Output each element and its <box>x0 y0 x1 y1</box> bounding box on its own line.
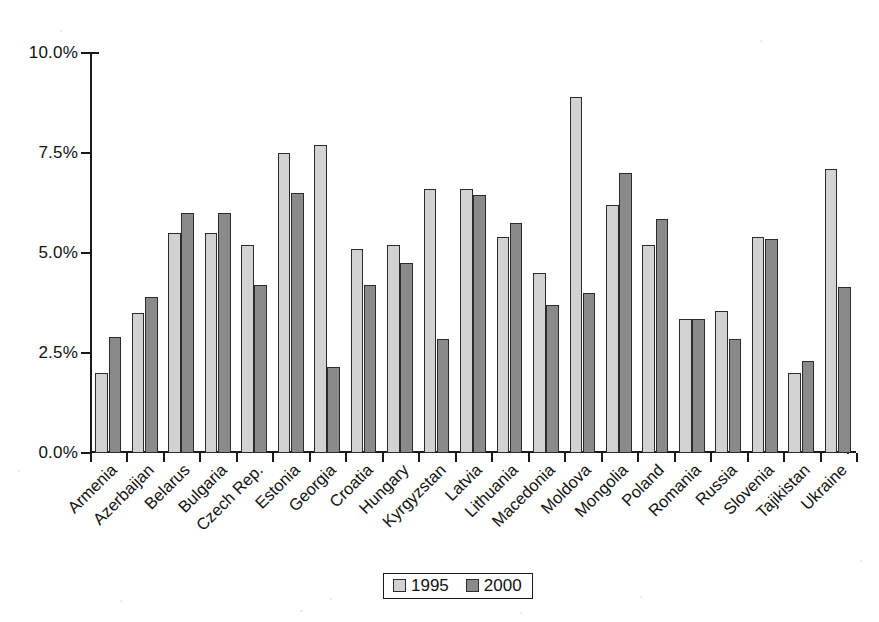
x-axis-tick <box>163 453 165 462</box>
legend-swatch-icon-1995 <box>393 579 406 592</box>
x-axis-labels: ArmeniaAzerbaijanBelarusBulgariaCzech Re… <box>0 0 879 622</box>
scan-artifact <box>520 612 522 614</box>
x-axis-tick <box>126 453 128 462</box>
x-axis-tick <box>382 453 384 462</box>
y-axis-tick <box>81 152 90 154</box>
legend-label-1995: 1995 <box>411 577 449 594</box>
y-axis-tick <box>81 252 90 254</box>
x-axis-tick <box>199 453 201 462</box>
x-axis-tick <box>820 453 822 462</box>
chart-legend: 1995 2000 <box>383 573 533 599</box>
scan-artifact <box>120 600 122 602</box>
y-axis-tick <box>81 352 90 354</box>
bar-chart-figure: 0.0%2.5%5.0%7.5%10.0% ArmeniaAzerbaijanB… <box>0 0 879 622</box>
scan-artifact <box>860 560 862 562</box>
x-axis-tick <box>856 453 858 462</box>
x-axis-tick <box>236 453 238 462</box>
x-axis-tick <box>418 453 420 462</box>
y-axis-tick <box>81 452 90 454</box>
scan-artifact <box>760 40 762 42</box>
x-axis-tick <box>272 453 274 462</box>
x-axis-tick <box>710 453 712 462</box>
x-axis-tick <box>455 453 457 462</box>
x-axis-tick <box>674 453 676 462</box>
legend-entry-1995: 1995 <box>393 577 449 594</box>
legend-swatch-icon-2000 <box>466 579 479 592</box>
x-axis-tick <box>309 453 311 462</box>
scan-artifact <box>806 470 808 472</box>
x-axis-tick <box>90 453 92 462</box>
scan-artifact <box>60 30 62 32</box>
scan-artifact <box>640 596 642 598</box>
scan-artifact <box>300 610 303 612</box>
scan-artifact <box>330 598 332 600</box>
x-axis-tick <box>601 453 603 462</box>
x-axis-tick <box>564 453 566 462</box>
legend-label-2000: 2000 <box>484 577 522 594</box>
x-axis-tick <box>783 453 785 462</box>
x-axis-tick <box>528 453 530 462</box>
y-axis-tick <box>81 52 90 54</box>
x-axis-tick <box>345 453 347 462</box>
scan-artifact <box>18 470 20 472</box>
x-axis-tick <box>637 453 639 462</box>
x-axis-tick <box>491 453 493 462</box>
x-axis-tick <box>747 453 749 462</box>
legend-entry-2000: 2000 <box>466 577 522 594</box>
